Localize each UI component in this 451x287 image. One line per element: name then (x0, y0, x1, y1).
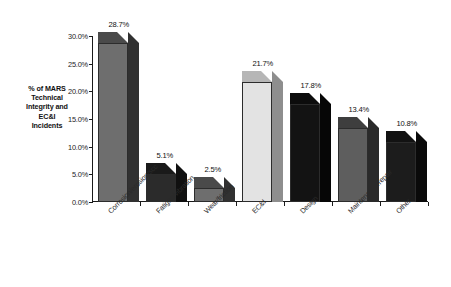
bar-column (146, 163, 176, 202)
bar-column (98, 32, 128, 202)
x-axis-tick-mark (284, 202, 285, 206)
bar-side-face (176, 163, 187, 202)
bar-value-label: 17.8% (301, 81, 322, 90)
y-axis-tick-mark (89, 64, 93, 65)
bar-value-label: 13.4% (349, 105, 370, 114)
x-axis-tick-mark (332, 202, 333, 206)
bar-front-face (386, 142, 416, 202)
y-axis-tick-mark (89, 147, 93, 148)
bar-front-face (242, 82, 272, 202)
bar-column (386, 131, 416, 202)
bar-side-face (416, 131, 427, 202)
y-axis-tick-label: 0.0% (56, 198, 88, 207)
y-axis-tick-labels: 0.0%5.0%10.0%15.0%20.0%25.0%30.0% (50, 0, 88, 287)
bar-side-face (272, 71, 283, 202)
bar-top-face (338, 117, 368, 128)
bar-side-face (320, 93, 331, 202)
bar-front-face (290, 104, 320, 202)
bar-column (242, 71, 272, 202)
bar-column (338, 117, 368, 202)
bar-value-label: 5.1% (157, 151, 174, 160)
plot-area: 28.7%5.1%2.5%21.7%17.8%13.4%10.8% (92, 36, 428, 202)
bar-chart: % of MARS Technical Integrity and EC&I I… (0, 0, 451, 287)
y-axis-tick-mark (89, 202, 93, 203)
y-axis-tick-label: 10.0% (56, 143, 88, 152)
y-axis-tick-label: 20.0% (56, 87, 88, 96)
y-axis-tick-mark (89, 36, 93, 37)
bar-side-face (128, 32, 139, 202)
bar-front-face (98, 43, 128, 202)
y-axis-tick-label: 25.0% (56, 60, 88, 69)
y-axis-tick-mark (89, 119, 93, 120)
bar-side-face (368, 117, 379, 202)
bar-front-face (338, 128, 368, 202)
bar-front-face (194, 188, 224, 202)
bar-top-face (146, 163, 176, 174)
y-axis-tick-label: 15.0% (56, 115, 88, 124)
bar-top-face (290, 93, 320, 104)
bar-top-face (242, 71, 272, 82)
bar-top-face (194, 177, 224, 188)
bar-top-face (98, 32, 128, 43)
bar-column (194, 177, 224, 202)
y-axis-tick-label: 30.0% (56, 32, 88, 41)
y-axis-tick-label: 5.0% (56, 170, 88, 179)
x-axis-tick-mark (236, 202, 237, 206)
bar-value-label: 28.7% (109, 20, 130, 29)
x-axis-tick-mark (380, 202, 381, 206)
y-axis-tick-mark (89, 91, 93, 92)
bar-front-face (146, 174, 176, 202)
bar-top-face (386, 131, 416, 142)
bar-value-label: 10.8% (397, 119, 418, 128)
bar-side-face (224, 177, 235, 202)
x-axis-tick-mark (188, 202, 189, 206)
bar-value-label: 2.5% (205, 165, 222, 174)
x-axis-tick-mark (428, 202, 429, 206)
y-axis-tick-mark (89, 174, 93, 175)
bar-column (290, 93, 320, 202)
bar-value-label: 21.7% (253, 59, 274, 68)
x-axis-tick-mark (140, 202, 141, 206)
